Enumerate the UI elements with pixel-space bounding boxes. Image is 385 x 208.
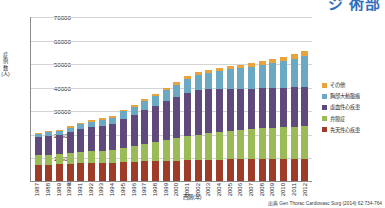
stacked-bar [45, 131, 52, 181]
x-axis-tick-2003: 2003 [203, 183, 214, 205]
plot-area [30, 17, 312, 182]
bar-segment [237, 130, 244, 159]
bar-segment [45, 165, 52, 182]
bar-segment [152, 106, 159, 143]
bar-segment [141, 110, 148, 144]
bar-segment [195, 135, 202, 160]
stacked-bar [184, 76, 191, 181]
bar-segment [56, 164, 63, 181]
stacked-bar [120, 110, 127, 181]
stacked-bar [280, 57, 287, 181]
bar-segment [227, 89, 234, 131]
x-axis-label: 西暦(年) [183, 193, 202, 201]
x-axis-tick-2005: 2005 [224, 183, 235, 205]
bar-column [140, 17, 151, 181]
legend-label: 先天性心疾患 [330, 127, 360, 133]
bar-segment [88, 151, 95, 163]
bar-column [33, 17, 44, 181]
bar-segment [120, 148, 127, 162]
bar-segment [173, 138, 180, 160]
bar-segment [195, 90, 202, 135]
x-axis-tick-1992: 1992 [85, 183, 96, 205]
bar-segment [248, 129, 255, 159]
bar-segment [248, 89, 255, 130]
x-axis-tick-2004: 2004 [214, 183, 225, 205]
legend-item-4[interactable]: 先天性心疾患 [322, 127, 360, 133]
bar-segment [195, 75, 202, 90]
x-axis-tick-2007: 2007 [246, 183, 257, 205]
bar-segment [77, 163, 84, 181]
x-axis-tick-1990: 1990 [64, 183, 75, 205]
bar-column [97, 17, 108, 181]
legend-item-1[interactable]: 胸部大動脈瘤 [322, 93, 360, 99]
bar-segment [205, 133, 212, 160]
bar-series [31, 17, 312, 181]
x-axis-tick-1996: 1996 [128, 183, 139, 205]
bar-segment [163, 140, 170, 161]
x-axis-tick-2006: 2006 [235, 183, 246, 205]
bar-column [289, 17, 300, 181]
x-axis-tick-1987: 1987 [32, 183, 43, 205]
stacked-bar [35, 133, 42, 181]
bar-segment [173, 85, 180, 97]
bar-column [257, 17, 268, 181]
bar-column [150, 17, 161, 181]
bar-segment [269, 159, 276, 181]
legend-label: 弁膜症 [330, 116, 345, 122]
bar-segment [227, 159, 234, 181]
bar-segment [120, 119, 127, 148]
bar-column [182, 17, 193, 181]
stacked-bar [248, 63, 255, 181]
legend-item-0[interactable]: その他 [322, 82, 360, 88]
bar-segment [109, 163, 116, 181]
legend-item-3[interactable]: 弁膜症 [322, 116, 360, 122]
bar-segment [259, 88, 266, 128]
bar-segment [152, 142, 159, 161]
bar-column [267, 17, 278, 181]
bar-segment [173, 97, 180, 138]
legend-item-2[interactable]: 虚血性心疾患 [322, 104, 360, 110]
bar-segment [45, 136, 52, 154]
stacked-bar [237, 65, 244, 181]
stacked-bar [163, 88, 170, 181]
bar-column [172, 17, 183, 181]
x-axis-tick-1999: 1999 [160, 183, 171, 205]
bar-segment [77, 129, 84, 152]
stacked-bar [99, 118, 106, 181]
stacked-bar [205, 70, 212, 181]
bar-segment [301, 87, 308, 126]
legend-label: その他 [330, 82, 345, 88]
stacked-bar [259, 61, 266, 181]
bar-segment [131, 115, 138, 147]
bar-segment [99, 126, 106, 151]
x-axis-tick-1991: 1991 [75, 183, 86, 205]
bar-column [76, 17, 87, 181]
bar-segment [248, 159, 255, 181]
legend-label: 虚血性心疾患 [330, 104, 360, 110]
bar-segment [237, 159, 244, 181]
x-axis-tick-1998: 1998 [150, 183, 161, 205]
x-axis-tick-1993: 1993 [96, 183, 107, 205]
bar-segment [163, 90, 170, 101]
stacked-bar [291, 54, 298, 181]
stacked-bar [109, 116, 116, 181]
chart-legend: その他胸部大動脈瘤虚血性心疾患弁膜症先天性心疾患 [322, 82, 360, 133]
bar-segment [67, 164, 74, 181]
bar-segment [152, 96, 159, 106]
bar-column [44, 17, 55, 181]
bar-segment [227, 69, 234, 88]
stacked-bar [67, 126, 74, 181]
bar-column [108, 17, 119, 181]
bar-column [246, 17, 257, 181]
bar-segment [301, 56, 308, 87]
bar-segment [269, 88, 276, 128]
bar-segment [88, 127, 95, 151]
bar-column [161, 17, 172, 181]
bar-segment [88, 163, 95, 181]
bar-segment [280, 61, 287, 87]
stacked-bar [173, 82, 180, 181]
bar-segment [184, 136, 191, 160]
bar-segment [248, 67, 255, 89]
bar-segment [259, 159, 266, 181]
stacked-bar [195, 72, 202, 181]
